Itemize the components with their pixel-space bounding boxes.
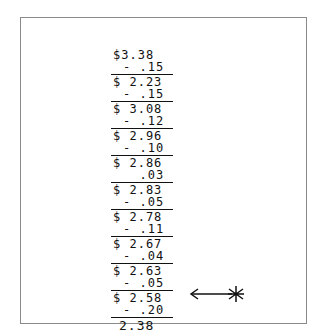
subtract-amount: - .11 bbox=[113, 223, 193, 235]
subtract-amount: - .20 bbox=[113, 304, 193, 316]
subtract-amount: - .04 bbox=[113, 250, 193, 262]
handwritten-calculation: $3.38 - .15 $ 2.23 - .15 $ 3.08 - .12 $ … bbox=[113, 49, 193, 332]
subtract-amount: - .15 bbox=[113, 61, 193, 73]
arrow-asterisk-icon bbox=[188, 285, 248, 303]
subtract-amount: - .12 bbox=[113, 115, 193, 127]
subtract-amount: - .05 bbox=[113, 277, 193, 289]
subtract-amount: - .05 bbox=[113, 196, 193, 208]
subtract-amount: - .15 bbox=[113, 88, 193, 100]
subtract-amount: .03 bbox=[113, 169, 193, 181]
final-total: 2.38 bbox=[113, 320, 193, 332]
subtract-amount: - .10 bbox=[113, 142, 193, 154]
